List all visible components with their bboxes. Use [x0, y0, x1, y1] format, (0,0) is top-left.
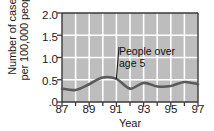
line-chart: Number of cases per 100,000 people 2.0 1… [0, 0, 214, 131]
x-tick-label-89: 89 [77, 104, 101, 116]
x-tick-label-93: 93 [132, 104, 156, 116]
x-axis-title: Year [62, 117, 198, 129]
x-tick-label-95: 95 [159, 104, 183, 116]
x-tick-label-87: 87 [50, 104, 74, 116]
annotation-line-2: age 5 [119, 57, 175, 69]
x-axis-tick-labels: 87 89 91 93 95 97 [0, 0, 214, 131]
x-tick-label-97: 97 [186, 104, 210, 116]
x-tick-label-91: 91 [104, 104, 128, 116]
annotation-line-1: People over [119, 45, 175, 57]
annotation-label: People over age 5 [119, 45, 175, 69]
